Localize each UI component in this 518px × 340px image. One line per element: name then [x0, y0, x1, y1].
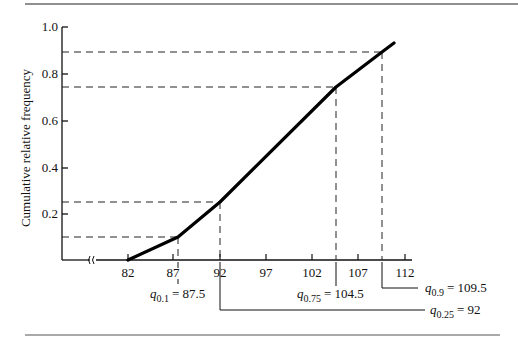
x-tick-label: 102: [302, 265, 322, 280]
x-tick-label: 107: [348, 265, 368, 280]
y-tick-label: 1.0: [42, 19, 58, 34]
quantile-label-q01: q0.1= 87.5: [150, 286, 205, 304]
x-tick-label: 97: [260, 265, 274, 280]
y-tick-label: 0.6: [42, 113, 59, 128]
x-axis: 82 87 92 97 102 107 112: [62, 254, 415, 280]
quantile-guides: [62, 52, 382, 260]
x-tick-label: 82: [122, 265, 135, 280]
y-tick-label: 0.2: [42, 206, 58, 221]
y-axis-title: Cumulative relative frequency: [18, 68, 33, 227]
quantile-label-q025: q0.25= 92: [430, 302, 481, 320]
y-tick-label: 0.8: [42, 66, 58, 81]
ogive-chart: 1.0 0.8 0.6 0.4 0.2 Cumulative relative …: [0, 0, 518, 340]
quantile-label-q075: q0.75= 104.5: [297, 286, 364, 304]
x-tick-label: 112: [395, 265, 414, 280]
y-axis: 1.0 0.8 0.6 0.4 0.2 Cumulative relative …: [18, 19, 68, 260]
quantile-label-q09: q0.9= 109.5: [425, 280, 487, 298]
ogive-line: [128, 43, 394, 260]
y-tick-label: 0.4: [42, 160, 59, 175]
